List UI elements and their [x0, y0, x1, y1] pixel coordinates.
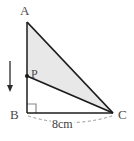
- right-angle-marker: [27, 104, 36, 113]
- force-arrow-head: [7, 85, 13, 92]
- vertex-label-b: B: [10, 108, 19, 121]
- point-label-p: P: [31, 68, 38, 80]
- dimension-label-bc: 8cm: [51, 118, 74, 130]
- geometry-figure: A B C P 8cm: [0, 0, 134, 141]
- point-p-dot: [25, 74, 29, 78]
- vertex-label-a: A: [20, 4, 29, 17]
- vertex-label-c: C: [118, 108, 127, 121]
